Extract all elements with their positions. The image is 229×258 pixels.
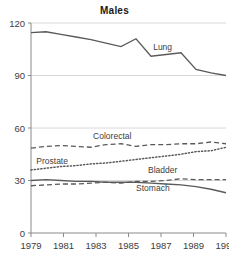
x-tick-label: 1979 [20, 240, 41, 251]
x-tick-label: 1989 [183, 240, 204, 251]
series-label-prostate: Prostate [36, 156, 68, 166]
x-tick-label: 1983 [85, 240, 106, 251]
y-axis-labels-group: 0306090120 [9, 18, 25, 239]
series-line-lung [31, 32, 226, 76]
x-axis-labels-group: 1979198119831985198719891991 [20, 240, 229, 251]
series-line-stomach [31, 180, 226, 193]
chart-container: Males LungColorectalProstateBladderStoma… [0, 0, 229, 258]
series-label-stomach: Stomach [136, 183, 170, 193]
series-labels-group: LungColorectalProstateBladderStomach [36, 42, 177, 193]
x-tick-label: 1987 [150, 240, 171, 251]
x-axis-ticks-group [31, 233, 226, 237]
y-tick-label: 30 [14, 175, 25, 186]
series-line-colorectal [31, 142, 226, 148]
y-tick-label: 60 [14, 123, 25, 134]
data-series-group [31, 32, 226, 193]
x-tick-label: 1981 [53, 240, 74, 251]
x-tick-label: 1985 [118, 240, 139, 251]
y-tick-label: 0 [20, 228, 25, 239]
series-label-bladder: Bladder [148, 165, 177, 175]
x-tick-label: 1991 [215, 240, 229, 251]
y-tick-label: 90 [14, 70, 25, 81]
series-label-lung: Lung [153, 42, 172, 52]
series-label-colorectal: Colorectal [93, 131, 131, 141]
y-tick-label: 120 [9, 18, 25, 29]
chart-svg: LungColorectalProstateBladderStomach 030… [0, 0, 229, 258]
